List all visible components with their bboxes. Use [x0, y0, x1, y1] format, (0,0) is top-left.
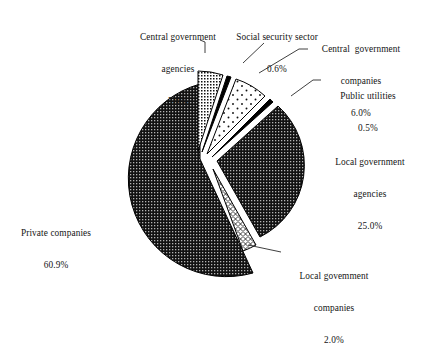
slice-label-line: Central government: [122, 32, 234, 43]
slice-value: 0.5%: [318, 123, 418, 134]
slice-value: 60.9%: [4, 260, 108, 271]
slice-value: 2.0%: [278, 335, 390, 346]
slice-label-local-government-agencies: Local government agencies 25.0%: [322, 136, 418, 253]
slice-label-line: Local government: [322, 157, 418, 168]
slice-label-line: Local govemment: [278, 271, 390, 282]
slice-label-line: Public utilities: [318, 91, 418, 102]
slice-value: 5.0%: [122, 96, 234, 107]
slice-label-local-government-companies: Local govemment companies 2.0%: [278, 250, 390, 347]
leader-line-local-gov-companies: [248, 245, 281, 252]
slice-label-line: companies: [278, 303, 390, 314]
slice-label-line: Central government: [302, 44, 420, 55]
slice-label-line: agencies: [322, 189, 418, 200]
slice-label-central-government-agencies: Central government agencies 5.0%: [122, 11, 234, 128]
slice-label-private-companies: Private companies 60.9%: [4, 207, 108, 292]
slice-label-line: Private companies: [4, 228, 108, 239]
slice-label-line: agencies: [122, 64, 234, 75]
slice-value: 25.0%: [322, 221, 418, 232]
